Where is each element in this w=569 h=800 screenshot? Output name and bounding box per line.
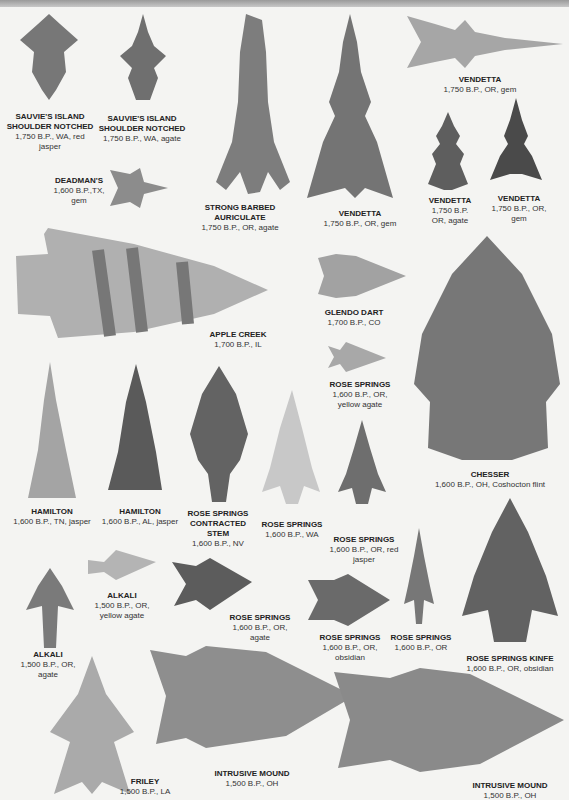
artifact-details: 1,600 B.P., WA [254, 530, 330, 540]
artifact-image [210, 12, 296, 197]
artifact-caption: INTRUSIVE MOUND 1,500 B.P., OH [202, 769, 302, 789]
artifact-details: 1,700 B.P., CO [312, 318, 396, 328]
artifact-caption: INTRUSIVE MOUND 1,500 B.P., OH [460, 781, 560, 800]
artifact-caption: VENDETTA 1,750 B.P. OR, agate [426, 196, 474, 226]
artifact-caption: SAUVIE'S ISLAND SHOULDER NOTCHED 1,750 B… [96, 114, 188, 144]
artifact-caption: ROSE SPRINGS 1,600 B.P., OR [383, 633, 459, 653]
artifact-image [118, 12, 168, 104]
artifact-name: ROSE SPRINGS [222, 613, 298, 623]
artifact-caption: SAUVIE'S ISLAND SHOULDER NOTCHED 1,750 B… [4, 112, 96, 152]
artifact-name: GLENDO DART [312, 308, 396, 318]
artifact-caption: HAMILTON 1,600 B.P., AL, jasper [96, 507, 184, 527]
artifact-image [334, 418, 390, 506]
artifact-details: 1,600 B.P., OR, red jasper [326, 545, 402, 565]
page-header-strip [0, 0, 569, 7]
artifact-name: ROSE SPRINGS KINFE [452, 654, 568, 664]
artifact-image [405, 12, 565, 70]
artifact-details: 1,600 B.P., AL, jasper [96, 517, 184, 527]
artifact-image [330, 664, 566, 776]
artifact-image [26, 360, 78, 502]
artifact-caption: VENDETTA 1,750 B.P., OR, gem [428, 75, 532, 95]
artifact-image [186, 364, 252, 504]
artifact-name: STRONG BARBED AURICULATE [198, 203, 282, 223]
artifact-name: VENDETTA [426, 196, 474, 206]
artifact-details: 1,750 B.P., WA, red jasper [4, 132, 96, 152]
artifact-image [306, 572, 392, 630]
artifact-details: 1,600 B.P., OR, obsidian [312, 643, 388, 663]
artifact-caption: DEADMAN'S 1,600 B.P.,TX, gem [48, 176, 110, 206]
artifact-caption: ROSE SPRINGS 1,600 B.P., OR, agate [222, 613, 298, 643]
artifact-name: CHESSER [420, 470, 560, 480]
artifact-image [86, 548, 158, 584]
artifact-details: 1,600 B.P., OR [383, 643, 459, 653]
artifact-name: HAMILTON [8, 507, 96, 517]
artifact-details: 1,600 B.P., OR, agate [222, 623, 298, 643]
artifact-details: 1,750 B.P., OR, gem [486, 204, 552, 224]
artifact-details: 1,500 B.P., OH [202, 779, 302, 789]
artifact-name: VENDETTA [486, 194, 552, 204]
artifact-details: 1,750 B.P., WA, agate [96, 134, 188, 144]
artifact-details: 1,500 B.P., OH [460, 791, 560, 800]
artifact-image [18, 12, 80, 102]
artifact-caption: VENDETTA 1,750 B.P., OR, gem [486, 194, 552, 224]
artifact-details: 1,600 B.P., TN, jasper [8, 517, 96, 527]
artifact-name: HAMILTON [96, 507, 184, 517]
artifact-details: 1,500 B.P., OR, yellow agate [84, 601, 160, 621]
artifact-name: VENDETTA [428, 75, 532, 85]
artifact-name: INTRUSIVE MOUND [202, 769, 302, 779]
artifact-details: 1,600 B.P., OR, yellow agate [322, 390, 398, 410]
artifact-image [258, 388, 324, 508]
artifact-details: 1,500 B.P., OR, agate [10, 660, 86, 680]
artifact-name: APPLE CREEK [200, 330, 276, 340]
artifact-image [100, 166, 170, 210]
artifact-image [22, 566, 78, 650]
artifact-image [305, 12, 395, 202]
artifact-name: ROSE SPRINGS [254, 520, 330, 530]
artifact-caption: ALKALI 1,500 B.P., OR, agate [10, 650, 86, 680]
artifact-caption: ALKALI 1,500 B.P., OR, yellow agate [84, 591, 160, 621]
artifact-name: ALKALI [10, 650, 86, 660]
artifact-details: 1,600 B.P., OR, obsidian [452, 664, 568, 674]
artifact-caption: ROSE SPRINGS 1,600 B.P., OR, obsidian [312, 633, 388, 663]
artifact-details: 1,500 B.P., LA [110, 787, 180, 797]
artifact-caption: GLENDO DART 1,700 B.P., CO [312, 308, 396, 328]
artifact-caption: ROSE SPRINGS 1,600 B.P., OR, red jasper [326, 535, 402, 565]
artifact-image [326, 340, 388, 374]
artifact-caption: ROSE SPRINGS KINFE 1,600 B.P., OR, obsid… [452, 654, 568, 674]
artifact-name: DEADMAN'S [48, 176, 110, 186]
artifact-image [488, 96, 544, 184]
artifact-name: INTRUSIVE MOUND [460, 781, 560, 791]
artifact-details: 1,750 B.P., OR, gem [428, 85, 532, 95]
artifact-details: 1,600 B.P., OH, Coshocton flint [420, 480, 560, 490]
artifact-name: ROSE SPRINGS [322, 380, 398, 390]
artifact-image [458, 496, 562, 644]
artifact-details: 1,750 B.P., OR, gem [318, 219, 402, 229]
artifact-image [14, 226, 270, 338]
artifact-caption: HAMILTON 1,600 B.P., TN, jasper [8, 507, 96, 527]
artifact-name: ROSE SPRINGS [312, 633, 388, 643]
artifact-details: 1,750 B.P. OR, agate [426, 206, 474, 226]
artifact-details: 1,750 B.P., OR, agate [198, 223, 282, 233]
artifact-image [402, 526, 436, 626]
artifact-caption: APPLE CREEK 1,700 B.P., IL [200, 330, 276, 350]
artifact-name: VENDETTA [318, 209, 402, 219]
artifact-image [316, 250, 408, 302]
artifact-name: SAUVIE'S ISLAND SHOULDER NOTCHED [96, 114, 188, 134]
artifact-details: 1,600 B.P., NV [182, 539, 254, 549]
artifact-name: ROSE SPRINGS CONTRACTED STEM [182, 509, 254, 539]
artifact-caption: VENDETTA 1,750 B.P., OR, gem [318, 209, 402, 229]
artifact-name: SAUVIE'S ISLAND SHOULDER NOTCHED [4, 112, 96, 132]
artifact-caption: FRILEY 1,500 B.P., LA [110, 777, 180, 797]
artifact-name: FRILEY [110, 777, 180, 787]
artifact-caption: ROSE SPRINGS 1,600 B.P., OR, yellow agat… [322, 380, 398, 410]
artifact-image [412, 234, 562, 462]
artifact-caption: CHESSER 1,600 B.P., OH, Coshocton flint [420, 470, 560, 490]
artifact-details: 1,600 B.P.,TX, gem [48, 186, 110, 206]
artifact-details: 1,700 B.P., IL [200, 340, 276, 350]
artifact-name: ROSE SPRINGS [383, 633, 459, 643]
artifact-caption: ROSE SPRINGS 1,600 B.P., WA [254, 520, 330, 540]
artifact-image [106, 362, 164, 492]
artifact-caption: STRONG BARBED AURICULATE 1,750 B.P., OR,… [198, 203, 282, 233]
artifact-name: ROSE SPRINGS [326, 535, 402, 545]
artifact-caption: ROSE SPRINGS CONTRACTED STEM 1,600 B.P.,… [182, 509, 254, 549]
